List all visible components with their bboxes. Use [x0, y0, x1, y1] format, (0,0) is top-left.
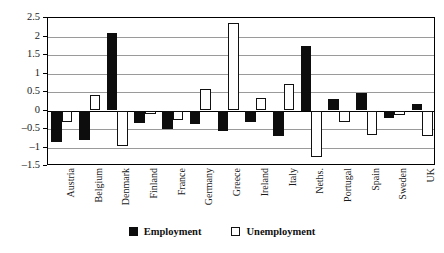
x-label-germany: Germany — [203, 168, 214, 220]
bar-employment-belgium — [79, 111, 90, 141]
x-label-portugal: Portugal — [342, 168, 353, 220]
bar-unemployment-denmark — [117, 111, 128, 146]
bar-group — [162, 18, 183, 164]
legend-swatch-icon — [231, 227, 240, 236]
bar-employment-ireland — [245, 111, 256, 123]
bar-group — [384, 18, 405, 164]
y-tick-label: 1 — [0, 68, 40, 79]
bar-group — [301, 18, 322, 164]
y-tick-label: 2.5 — [0, 12, 40, 23]
x-label-france: France — [176, 168, 187, 220]
bar-unemployment-austria — [62, 111, 73, 122]
bar-employment-sweden — [384, 111, 395, 118]
y-tick-label: –1.5 — [0, 160, 40, 171]
bar-employment-germany — [190, 111, 201, 125]
bar-unemployment-portugal — [339, 111, 350, 122]
bar-group — [51, 18, 72, 164]
bar-employment-finland — [134, 111, 145, 124]
bar-unemployment-finland — [145, 111, 156, 115]
x-label-ireland: Ireland — [259, 168, 270, 220]
bar-unemployment-greece — [228, 23, 239, 111]
y-tick-label: 0 — [0, 105, 40, 116]
bar-unemployment-france — [173, 111, 184, 121]
bar-employment-spain — [356, 93, 367, 111]
legend-entry-employment: Employment — [129, 226, 202, 237]
bar-unemployment-germany — [200, 89, 211, 110]
legend-label: Unemployment — [246, 226, 315, 237]
legend-swatch-icon — [129, 227, 138, 236]
bar-unemployment-ireland — [256, 98, 267, 110]
bar-group — [328, 18, 349, 164]
bar-unemployment-spain — [367, 111, 378, 135]
bars-layer — [48, 18, 434, 164]
bar-employment-denmark — [107, 33, 118, 111]
bar-group — [273, 18, 294, 164]
plot-area — [47, 17, 435, 165]
bar-employment-austria — [51, 111, 62, 142]
bar-group — [134, 18, 155, 164]
x-label-uk: UK — [425, 168, 436, 220]
y-tick-label: 2 — [0, 31, 40, 42]
x-label-finland: Finland — [148, 168, 159, 220]
bar-employment-portugal — [328, 99, 339, 111]
x-label-belgium: Belgium — [93, 168, 104, 220]
x-label-greece: Greece — [231, 168, 242, 220]
legend-label: Employment — [144, 226, 202, 237]
bar-group — [79, 18, 100, 164]
x-label-austria: Austria — [65, 168, 76, 220]
bar-unemployment-belgium — [90, 95, 101, 111]
x-label-italy: Italy — [287, 168, 298, 220]
bar-group — [245, 18, 266, 164]
chart-figure: 2.521.510.50–0.5–1–1.5 AustriaBelgiumDen… — [0, 0, 444, 253]
y-tick-mark — [43, 165, 47, 166]
y-tick-label: 1.5 — [0, 49, 40, 60]
x-label-denmark: Denmark — [120, 168, 131, 220]
bar-employment-greece — [218, 111, 229, 131]
bar-employment-france — [162, 111, 173, 130]
bar-unemployment-italy — [284, 84, 295, 111]
bar-employment-uk — [412, 104, 423, 110]
legend-entry-unemployment: Unemployment — [231, 226, 315, 237]
bar-unemployment-sweden — [394, 111, 405, 115]
x-label-neths: Neths. — [314, 168, 325, 220]
chart-legend: EmploymentUnemployment — [0, 226, 444, 237]
bar-group — [218, 18, 239, 164]
bar-group — [107, 18, 128, 164]
y-tick-label: –0.5 — [0, 123, 40, 134]
bar-unemployment-uk — [422, 111, 433, 136]
x-label-sweden: Sweden — [397, 168, 408, 220]
bar-group — [190, 18, 211, 164]
bar-group — [356, 18, 377, 164]
x-axis-category-labels: AustriaBelgiumDenmarkFinlandFranceGerman… — [47, 168, 435, 220]
bar-employment-neths — [301, 46, 312, 111]
bar-group — [412, 18, 433, 164]
y-tick-label: 0.5 — [0, 86, 40, 97]
x-label-spain: Spain — [370, 168, 381, 220]
bar-employment-italy — [273, 111, 284, 136]
bar-unemployment-neths — [311, 111, 322, 157]
y-tick-label: –1 — [0, 142, 40, 153]
